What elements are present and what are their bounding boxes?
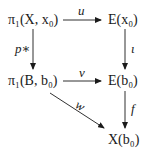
node-pi1-B: π₁(B, b₀) [8, 74, 58, 88]
label-f: f [131, 102, 135, 115]
label-u: u [78, 4, 85, 17]
node-X-b0: X(b₀) [108, 133, 139, 147]
node-E-x0: E(x₀) [108, 13, 138, 27]
label-v: v [79, 66, 85, 79]
node-E-b0: E(b₀) [108, 74, 138, 88]
node-pi1-X: π₁(X, x₀) [8, 13, 58, 27]
label-iota: ι [131, 42, 135, 55]
label-p-star: p∗ [15, 42, 30, 55]
